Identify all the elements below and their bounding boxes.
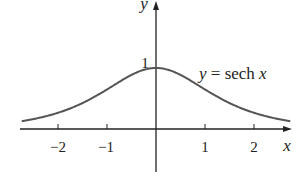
x-tick-label-neg1: −1 bbox=[98, 139, 114, 155]
x-axis-arrow-icon bbox=[283, 126, 292, 132]
y-axis-arrow-icon bbox=[153, 1, 159, 10]
sech-chart: −2 −1 1 2 1 x y y = sech x bbox=[0, 0, 308, 181]
x-tick-label-1: 1 bbox=[201, 139, 209, 155]
y-axis-label: y bbox=[138, 0, 148, 13]
x-tick-label-neg2: −2 bbox=[50, 139, 66, 155]
x-axis-label: x bbox=[282, 136, 291, 155]
x-tick-label-2: 2 bbox=[250, 139, 258, 155]
y-tick-label-1: 1 bbox=[141, 55, 149, 71]
curve-label: y = sech x bbox=[197, 64, 267, 83]
